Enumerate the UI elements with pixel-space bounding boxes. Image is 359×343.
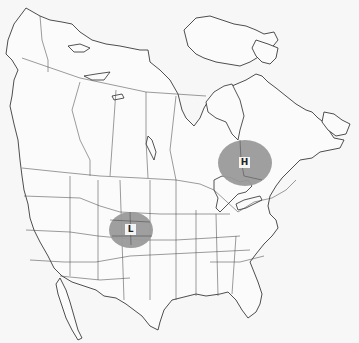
mainland-outline <box>6 8 344 330</box>
low-pressure-label: L <box>125 224 136 235</box>
high-pressure-label: H <box>239 157 250 168</box>
north-america-map <box>0 0 359 343</box>
baja-california <box>56 278 82 340</box>
